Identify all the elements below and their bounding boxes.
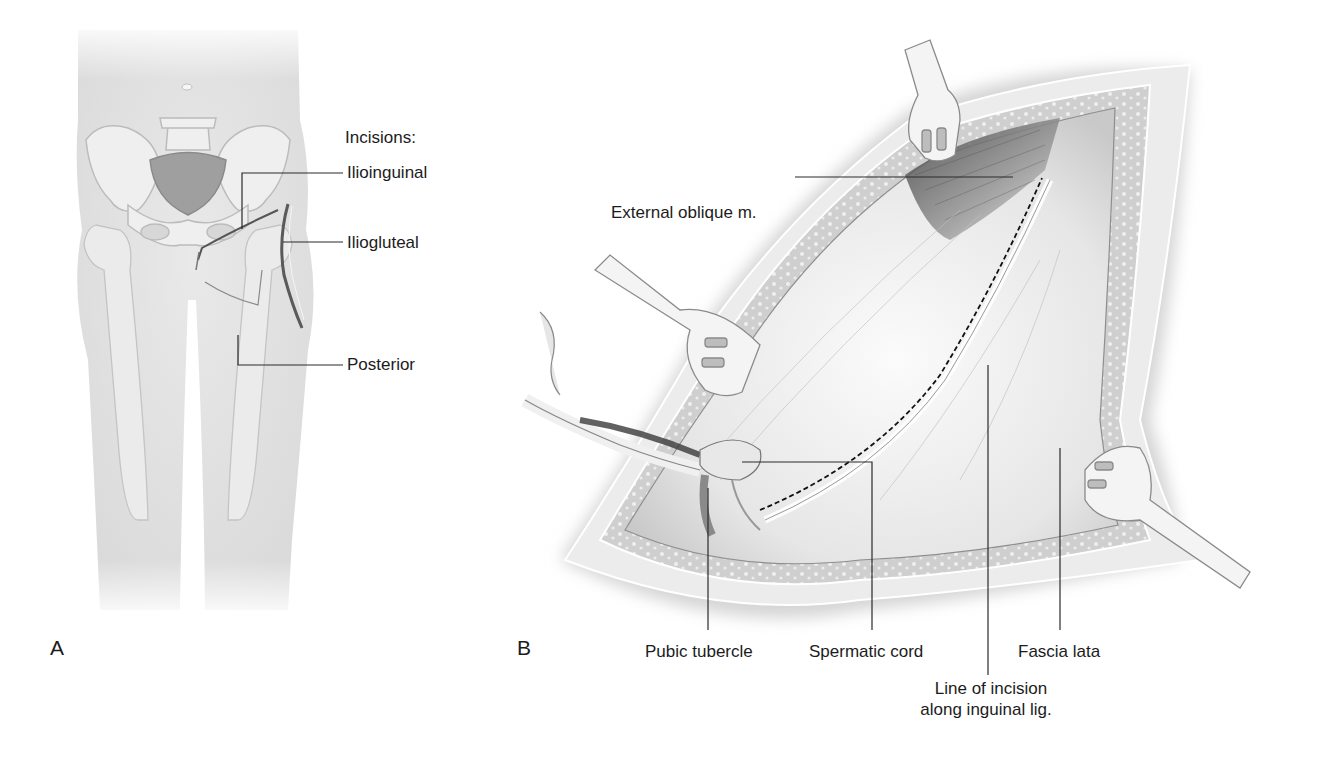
label-external-oblique: External oblique m. xyxy=(611,203,757,223)
label-iliogluteal: Iliogluteal xyxy=(347,233,419,253)
label-pubic-tubercle: Pubic tubercle xyxy=(645,642,753,662)
label-line-of-incision-1: Line of incision xyxy=(906,679,1076,699)
label-line-of-incision-2: along inguinal lig. xyxy=(901,700,1071,720)
panel-b-artwork xyxy=(525,40,1250,675)
label-spermatic-cord: Spermatic cord xyxy=(809,642,923,662)
retractor-top xyxy=(905,40,960,161)
incisions-heading: Incisions: xyxy=(345,128,416,148)
label-posterior: Posterior xyxy=(347,355,415,375)
panel-letter-a: A xyxy=(50,636,64,660)
panel-letter-b: B xyxy=(517,636,531,660)
navel xyxy=(182,84,192,90)
label-fascia-lata: Fascia lata xyxy=(1018,642,1100,662)
label-ilioinguinal: Ilioinguinal xyxy=(347,163,427,183)
panel-a-artwork xyxy=(60,20,343,620)
